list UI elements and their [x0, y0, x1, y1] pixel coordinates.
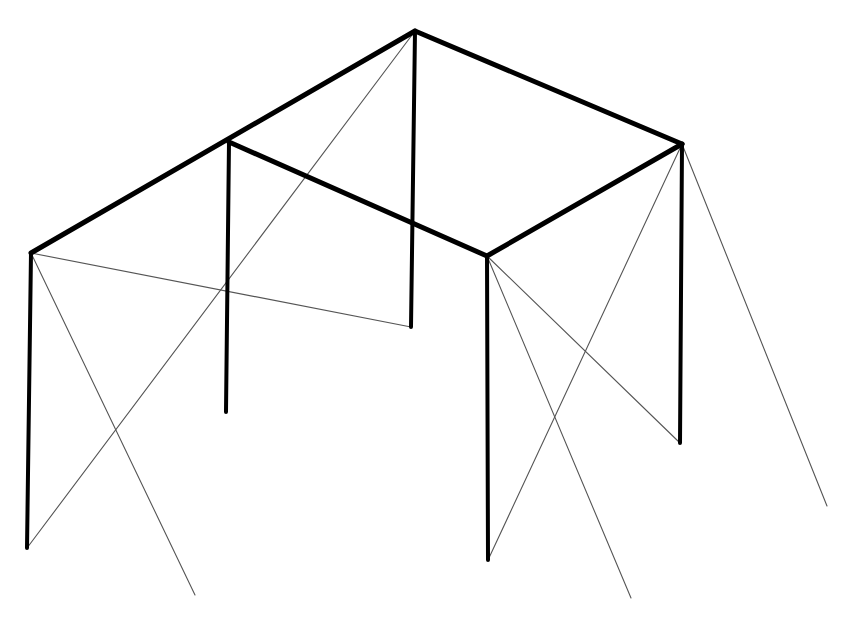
post-a: [27, 253, 31, 548]
brace-a-bottom-to-c-top: [27, 31, 415, 548]
post-b: [226, 142, 229, 412]
brace-a-to-ground: [31, 253, 195, 595]
brace-e-to-ground: [682, 144, 827, 506]
beam-group: [31, 31, 682, 256]
brace-d-to-e-bottom: [487, 256, 680, 443]
frame-diagram: [0, 0, 857, 620]
post-d: [487, 256, 488, 560]
brace-group: [27, 31, 827, 598]
post-c: [411, 31, 415, 327]
post-group: [27, 31, 682, 560]
beam-middle: [229, 142, 487, 256]
beam-back-right: [415, 31, 682, 144]
beam-left-ridge: [31, 31, 415, 253]
beam-front-right: [487, 144, 682, 256]
brace-d-to-ground: [487, 256, 631, 598]
brace-d-bottom-to-e-top: [488, 144, 682, 560]
post-e: [680, 144, 682, 443]
